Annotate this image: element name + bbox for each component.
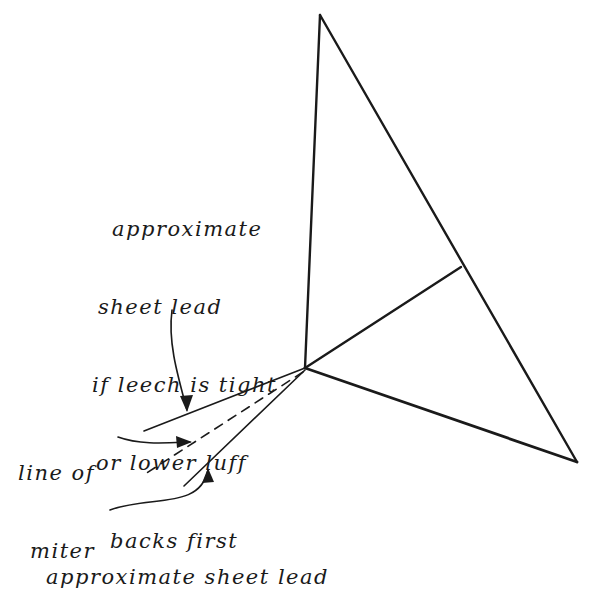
label-line: approximate sheet lead <box>46 564 356 590</box>
label-line: or lower luff <box>92 450 277 476</box>
label-line: sheet lead <box>92 294 277 320</box>
foot-line <box>305 368 577 462</box>
label-line: line of <box>18 460 95 486</box>
label-line: approximate <box>92 216 277 242</box>
clew-to-leech-line <box>305 267 461 368</box>
label-head-luffs: approximate sheet lead if head luffs fir… <box>46 512 356 612</box>
leech-line <box>320 15 577 462</box>
luff-line <box>305 15 320 368</box>
label-line: if leech is tight <box>92 372 277 398</box>
